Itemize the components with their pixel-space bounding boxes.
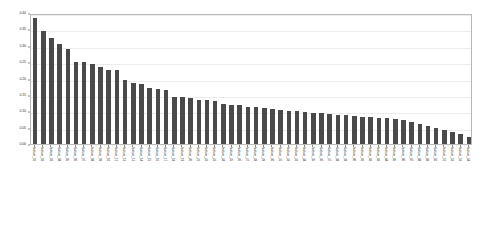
bar <box>262 108 267 144</box>
bar <box>123 80 128 144</box>
bar <box>442 130 447 144</box>
x-tick-label: feature_20 <box>188 147 191 161</box>
x-tick-label: feature_40 <box>351 147 354 161</box>
x-tick-label: feature_14 <box>139 147 142 161</box>
bar <box>467 137 472 144</box>
bar <box>139 84 144 144</box>
bar <box>352 116 357 144</box>
x-tick-label: feature_47 <box>409 147 412 161</box>
y-tick-label: 0.10 <box>19 110 26 114</box>
plot-area <box>30 14 472 145</box>
x-tick-label: feature_54 <box>466 147 469 161</box>
bar <box>303 112 308 144</box>
x-tick-label: feature_11 <box>114 147 117 161</box>
bar <box>197 100 202 144</box>
bar <box>368 117 373 144</box>
x-tick-label: feature_18 <box>171 147 174 161</box>
bar <box>98 67 103 144</box>
x-tick-label: feature_02 <box>40 147 43 161</box>
x-tick-label: feature_51 <box>441 147 444 161</box>
bar <box>319 113 324 144</box>
bar <box>49 38 54 144</box>
bar <box>401 120 406 144</box>
x-tick-label: feature_12 <box>122 147 125 161</box>
x-tick-label: feature_37 <box>327 147 330 161</box>
x-tick-label: feature_34 <box>302 147 305 161</box>
bar <box>360 117 365 145</box>
bar-chart-figure: 0.000.050.100.150.200.250.300.350.40 fea… <box>0 0 490 250</box>
x-tick-label: feature_25 <box>229 147 232 161</box>
x-tick-label: feature_44 <box>384 147 387 161</box>
x-tick-label: feature_33 <box>294 147 297 161</box>
x-tick-label: feature_31 <box>278 147 281 161</box>
y-tick-label: 0.00 <box>19 143 26 147</box>
bar <box>418 124 423 144</box>
bar <box>287 111 292 144</box>
bar <box>458 134 463 144</box>
bar <box>434 128 439 144</box>
bar <box>311 113 316 144</box>
x-tick-label: feature_17 <box>163 147 166 161</box>
x-tick-label: feature_15 <box>147 147 150 161</box>
x-tick-label: feature_35 <box>310 147 313 161</box>
bar <box>33 18 38 144</box>
bar <box>393 119 398 144</box>
x-tick-label: feature_06 <box>73 147 76 161</box>
bar <box>115 70 120 144</box>
x-tick-label: feature_08 <box>89 147 92 161</box>
y-tick-label: 0.05 <box>19 127 26 131</box>
y-tick-label: 0.20 <box>19 78 26 82</box>
bar <box>336 115 341 144</box>
x-tick-label: feature_04 <box>57 147 60 161</box>
x-tick-label: feature_03 <box>49 147 52 161</box>
bar <box>131 83 136 144</box>
bar <box>41 31 46 144</box>
bar <box>57 44 62 144</box>
bar <box>180 97 185 144</box>
bar <box>426 126 431 144</box>
y-tick-label: 0.25 <box>19 61 26 65</box>
bar <box>409 122 414 144</box>
x-tick-label: feature_05 <box>65 147 68 161</box>
bar <box>450 132 455 144</box>
x-tick-label: feature_45 <box>392 147 395 161</box>
y-tick-label: 0.15 <box>19 94 26 98</box>
bar <box>246 107 251 144</box>
x-tick-label: feature_21 <box>196 147 199 161</box>
bar <box>90 64 95 144</box>
x-tick-label: feature_28 <box>253 147 256 161</box>
x-tick-label: feature_29 <box>261 147 264 161</box>
bar-series <box>31 15 471 144</box>
bar <box>270 109 275 144</box>
y-tick-label: 0.40 <box>19 12 26 16</box>
x-tick-label: feature_22 <box>204 147 207 161</box>
x-axis-tick-labels: feature_01feature_02feature_03feature_04… <box>30 146 472 246</box>
bar <box>188 98 193 145</box>
y-tick-label: 0.35 <box>19 29 26 33</box>
x-tick-label: feature_09 <box>98 147 101 161</box>
x-tick-label: feature_24 <box>220 147 223 161</box>
x-tick-label: feature_42 <box>368 147 371 161</box>
bar <box>164 90 169 144</box>
x-tick-label: feature_50 <box>433 147 436 161</box>
x-tick-label: feature_52 <box>450 147 453 161</box>
x-tick-label: feature_27 <box>245 147 248 161</box>
bar <box>66 49 71 144</box>
x-tick-label: feature_39 <box>343 147 346 161</box>
x-tick-label: feature_16 <box>155 147 158 161</box>
bar <box>221 104 226 144</box>
bar <box>385 118 390 144</box>
x-tick-label: feature_13 <box>130 147 133 161</box>
x-tick-label: feature_01 <box>32 147 35 161</box>
x-tick-label: feature_48 <box>417 147 420 161</box>
bar <box>237 105 242 144</box>
x-tick-label: feature_23 <box>212 147 215 161</box>
bar <box>74 62 79 144</box>
bar <box>229 105 234 144</box>
x-tick-label: feature_10 <box>106 147 109 161</box>
bar <box>213 101 218 144</box>
bar <box>377 118 382 144</box>
x-tick-label: feature_30 <box>270 147 273 161</box>
bar <box>106 70 111 144</box>
x-tick-label: feature_46 <box>401 147 404 161</box>
